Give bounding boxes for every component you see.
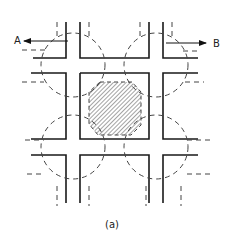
figure-caption: (a)	[105, 220, 119, 230]
label-b: B	[213, 39, 220, 49]
label-a: A	[14, 36, 21, 46]
hatched-central-region	[89, 82, 141, 135]
diagram-canvas	[0, 0, 226, 250]
